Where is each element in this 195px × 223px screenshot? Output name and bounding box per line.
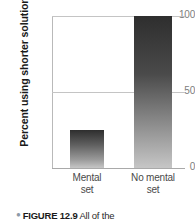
x-label-no-mental-set-line1: No mental xyxy=(112,172,194,184)
gridline-0-baseline xyxy=(52,168,185,169)
x-label-no-mental-set-line2: set xyxy=(112,184,194,196)
bar-no-mental-set-fill xyxy=(134,16,172,168)
plot-area xyxy=(52,16,185,168)
figure-bar-chart: Percent using shorter solution 100 50 0 … xyxy=(0,0,195,223)
bar-mental-set xyxy=(70,130,104,168)
y-axis-title: Percent using shorter solution xyxy=(18,0,30,152)
x-axis-labels: Mental set No mental set xyxy=(52,172,185,202)
figure-caption: ●FIGURE 12.9 All of the xyxy=(16,209,195,222)
figure-caption-label: FIGURE 12.9 xyxy=(23,210,78,221)
bar-no-mental-set xyxy=(134,16,172,168)
figure-caption-text: All of the xyxy=(79,210,114,221)
bar-mental-set-fill xyxy=(70,130,104,168)
bullet-icon: ● xyxy=(16,210,21,219)
x-label-no-mental-set: No mental set xyxy=(112,172,194,195)
